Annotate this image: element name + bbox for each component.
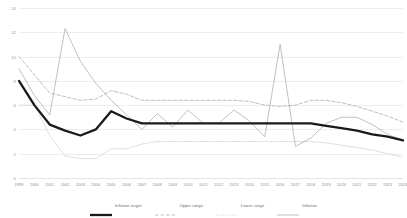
x-tick-label: 2006 xyxy=(122,182,131,187)
x-tick-label: 2022 xyxy=(368,182,377,187)
x-tick-label: 2002 xyxy=(61,182,70,187)
x-tick-label: 2015 xyxy=(260,182,269,187)
series-line-inflation-target xyxy=(19,81,403,141)
legend-swatch xyxy=(277,203,299,207)
x-tick-label: 2023 xyxy=(383,182,392,187)
line-chart: 02468101214 1999200020012002200320042005… xyxy=(0,0,407,218)
legend-label: Upper range xyxy=(180,203,203,208)
x-tick-label: 2017 xyxy=(291,182,300,187)
x-tick-label: 2024 xyxy=(399,182,407,187)
x-tick-label: 2007 xyxy=(137,182,146,187)
x-tick-label: 2014 xyxy=(245,182,254,187)
x-tick-label: 2003 xyxy=(76,182,85,187)
x-axis-labels: 1999200020012002200320042005200620072008… xyxy=(19,182,403,192)
x-tick-label: 2008 xyxy=(153,182,162,187)
series-line-lower-range xyxy=(19,105,403,158)
x-tick-label: 1999 xyxy=(15,182,24,187)
x-tick-label: 2012 xyxy=(214,182,223,187)
chart-legend: Inflation targetUpper rangeLower rangeIn… xyxy=(0,198,407,212)
legend-label: Lower range xyxy=(241,203,264,208)
legend-label: Inflation target xyxy=(115,203,142,208)
x-tick-label: 2013 xyxy=(230,182,239,187)
x-tick-label: 2001 xyxy=(45,182,54,187)
x-tick-label: 2010 xyxy=(184,182,193,187)
x-tick-label: 2005 xyxy=(107,182,116,187)
legend-swatch xyxy=(155,203,177,207)
series-line-upper-range xyxy=(19,57,403,123)
x-tick-label: 2000 xyxy=(30,182,39,187)
x-tick-label: 2011 xyxy=(199,182,208,187)
series-layer xyxy=(0,0,407,196)
plot-area: 02468101214 1999200020012002200320042005… xyxy=(0,0,407,196)
legend-item-lower-range[interactable]: Lower range xyxy=(216,203,264,208)
x-tick-label: 2018 xyxy=(306,182,315,187)
x-tick-label: 2004 xyxy=(91,182,100,187)
x-tick-label: 2019 xyxy=(322,182,331,187)
x-tick-label: 2021 xyxy=(352,182,361,187)
legend-item-upper-range[interactable]: Upper range xyxy=(155,203,203,208)
x-tick-label: 2020 xyxy=(337,182,346,187)
legend-item-inflation-target[interactable]: Inflation target xyxy=(90,203,142,208)
x-tick-label: 2009 xyxy=(168,182,177,187)
legend-swatch xyxy=(216,203,238,207)
x-tick-label: 2016 xyxy=(276,182,285,187)
legend-item-inflation[interactable]: Inflation xyxy=(277,203,317,208)
legend-swatch xyxy=(90,203,112,207)
legend-label: Inflation xyxy=(302,203,317,208)
